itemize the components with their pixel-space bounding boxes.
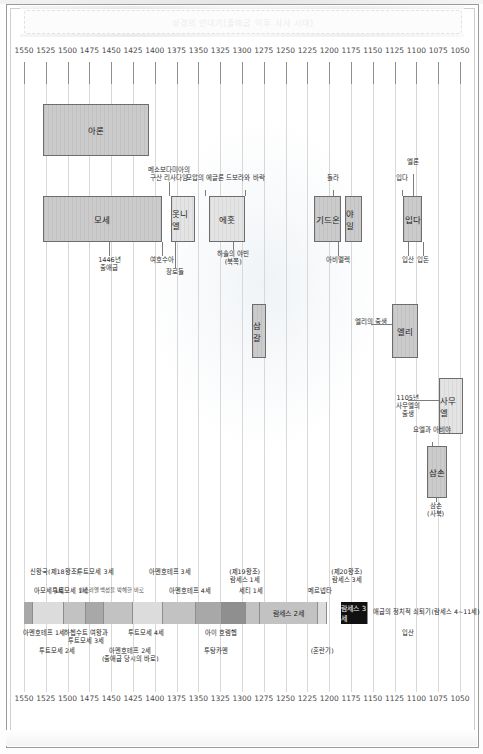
egypt-dynasty-segment bbox=[33, 602, 64, 624]
axis-tick-top: 1300 bbox=[232, 46, 251, 55]
egypt-decline-note: 애굽의 정치적 쇠퇴기(람세스 4~11세) bbox=[373, 608, 479, 616]
axis-tick-bottom: 1350 bbox=[189, 694, 208, 703]
annotation-leader-line bbox=[413, 174, 414, 196]
gridline bbox=[133, 62, 134, 692]
axis-tick-top: 1425 bbox=[123, 46, 142, 55]
chart-annotation: 여호수아 bbox=[150, 256, 174, 264]
annotation-leader-line bbox=[205, 190, 206, 196]
timeline-bar-label: 아론 bbox=[88, 124, 104, 136]
axis-tick-top: 1400 bbox=[145, 46, 164, 55]
axis-tick-mark bbox=[460, 62, 461, 84]
chart-annotation: 삼손(사북) bbox=[427, 502, 444, 518]
timeline-plot: 1550152515001475145014251400137513501325… bbox=[24, 46, 460, 706]
egypt-label-row2: 세티 1세 bbox=[239, 587, 263, 595]
annotation-leader-line bbox=[371, 324, 392, 325]
axis-tick-bottom: 1200 bbox=[320, 694, 339, 703]
gridline bbox=[220, 62, 221, 692]
timeline-bar-label: 입다 bbox=[405, 213, 421, 225]
axis-tick-top: 1525 bbox=[36, 46, 55, 55]
annotation-leader-line bbox=[432, 442, 433, 446]
chart-annotation: 드보라와 바락 bbox=[226, 174, 264, 182]
axis-tick-bottom: 1275 bbox=[254, 694, 273, 703]
annotation-leader-line bbox=[423, 242, 424, 256]
axis-tick-top: 1175 bbox=[341, 46, 360, 55]
gridline bbox=[177, 62, 178, 692]
chart-annotation: 아비멜렉 bbox=[326, 256, 350, 264]
egypt-label-below2: 투탕카멘 bbox=[204, 647, 228, 655]
axis-tick-mark bbox=[373, 62, 374, 84]
gridline bbox=[89, 62, 90, 692]
egypt-label-above: (제20왕조)람세스 3세 bbox=[331, 568, 362, 584]
egypt-label-above: (제19왕조)람세스 1세 bbox=[229, 568, 260, 584]
axis-tick-mark bbox=[416, 62, 417, 84]
chart-annotation: 모압의 에글론 bbox=[186, 174, 224, 182]
axis-tick-bottom: 1175 bbox=[341, 694, 360, 703]
scan-smudge-upper bbox=[20, 6, 464, 9]
egypt-dynasty-segment bbox=[86, 602, 104, 624]
egypt-label-row2: 아멘호테프 4세 bbox=[169, 587, 211, 595]
axis-tick-bottom: 1400 bbox=[145, 694, 164, 703]
axis-tick-top: 1375 bbox=[167, 46, 186, 55]
axis-tick-top: 1200 bbox=[320, 46, 339, 55]
chart-annotation: 장로들 bbox=[166, 268, 184, 276]
page-bottom-shadow bbox=[6, 730, 477, 746]
axis-tick-mark bbox=[133, 62, 134, 84]
gridline bbox=[155, 62, 156, 692]
chart-annotation: 메소보다미아의구산 리사다임 bbox=[148, 166, 190, 182]
egypt-dynasty-segment bbox=[246, 602, 260, 624]
annotation-leader-line bbox=[436, 498, 437, 502]
egypt-dynasty-segment bbox=[163, 602, 196, 624]
axis-tick-mark bbox=[264, 62, 265, 84]
chart-annotation: 엘론 bbox=[407, 158, 419, 166]
gridline bbox=[242, 62, 243, 692]
gridline bbox=[198, 62, 199, 692]
axis-tick-bottom: 1225 bbox=[298, 694, 317, 703]
axis-tick-mark bbox=[395, 62, 396, 84]
axis-tick-bottom: 1550 bbox=[14, 694, 33, 703]
gridline bbox=[24, 62, 25, 692]
egypt-label-below2: 투트모세 2세 bbox=[39, 647, 75, 655]
egypt-dynasty-segment bbox=[133, 602, 163, 624]
axis-bottom: 1550152515001475145014251400137513501325… bbox=[24, 694, 460, 706]
gridline bbox=[351, 62, 352, 692]
axis-tick-bottom: 1375 bbox=[167, 694, 186, 703]
axis-tick-mark bbox=[46, 62, 47, 84]
axis-tick-top: 1325 bbox=[211, 46, 230, 55]
axis-tick-bottom: 1050 bbox=[450, 694, 469, 703]
axis-tick-top: 1150 bbox=[363, 46, 382, 55]
chart-annotation: 1105년사무엘의출생 bbox=[396, 394, 420, 418]
chart-annotation: 요엘과 아비야 bbox=[413, 426, 451, 434]
gridline bbox=[460, 62, 461, 692]
axis-top: 1550152515001475145014251400137513501325… bbox=[24, 46, 460, 58]
timeline-bar: 입다 bbox=[403, 196, 422, 242]
timeline-bar-label: 사무엘 bbox=[440, 394, 462, 418]
egypt-dynasty-segment bbox=[318, 602, 327, 624]
timeline-bar-label: 모세 bbox=[94, 213, 110, 225]
axis-tick-bottom: 1425 bbox=[123, 694, 142, 703]
gridline bbox=[329, 62, 330, 692]
axis-tick-mark bbox=[111, 62, 112, 84]
axis-tick-bottom: 1150 bbox=[363, 694, 382, 703]
egypt-label-row2: 이스라엘 백성을 박해한 바로 bbox=[79, 587, 144, 594]
egypt-label-above: 신왕국(제18왕조) bbox=[30, 568, 79, 576]
axis-tick-mark bbox=[307, 62, 308, 84]
gridline bbox=[395, 62, 396, 692]
axis-tick-bottom: 1075 bbox=[429, 694, 448, 703]
axis-tick-bottom: 1450 bbox=[102, 694, 121, 703]
axis-tick-mark bbox=[155, 62, 156, 84]
egypt-dynasty-segment bbox=[64, 602, 86, 624]
egypt-label-below: 하쳅수트 여왕과투트모세 3세 bbox=[64, 629, 108, 645]
egypt-label-below: 아멘호테프 1세 bbox=[23, 629, 65, 637]
chart-annotation: 입돈 bbox=[417, 256, 429, 264]
timeline-bar: 삼갈 bbox=[252, 304, 266, 358]
timeline-bar-label: 에훗 bbox=[219, 213, 235, 225]
gridline bbox=[373, 62, 374, 692]
timeline-bar-label: 기드온 bbox=[316, 213, 340, 225]
chart-annotation: 돌라 bbox=[327, 174, 339, 182]
axis-tick-mark bbox=[89, 62, 90, 84]
axis-tick-top: 1100 bbox=[407, 46, 426, 55]
timeline-bar: 삼손 bbox=[427, 446, 447, 498]
annotation-leader-line bbox=[408, 242, 409, 256]
annotation-leader-line bbox=[109, 242, 110, 256]
axis-tick-mark bbox=[68, 62, 69, 84]
